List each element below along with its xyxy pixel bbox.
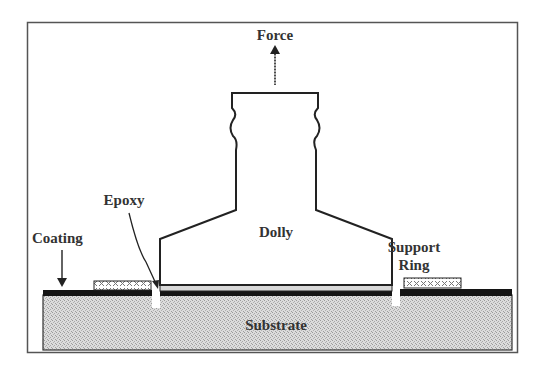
epoxy-leader-line	[129, 213, 157, 286]
diagram-canvas: Force Epoxy Coating Dolly Support Ring S…	[0, 0, 543, 375]
dolly-shape	[160, 93, 392, 285]
label-epoxy: Epoxy	[100, 192, 148, 209]
coating-right	[400, 289, 512, 296]
label-substrate: Substrate	[226, 317, 326, 334]
force-arrow-head	[270, 45, 280, 54]
support-ring-right	[404, 278, 461, 288]
coating-arrow-head	[57, 278, 67, 287]
cut-gap-left	[152, 288, 160, 308]
label-coating: Coating	[32, 230, 83, 247]
cut-gap-right	[392, 288, 400, 306]
label-dolly: Dolly	[246, 224, 306, 241]
label-support-ring-line1: Support	[384, 239, 444, 256]
label-support-ring-line2: Ring	[384, 257, 444, 274]
support-ring-left	[94, 281, 151, 290]
coating-under-dolly	[160, 291, 392, 296]
coating-left	[43, 290, 152, 296]
epoxy-leader-head	[152, 280, 159, 289]
label-force: Force	[252, 27, 298, 44]
